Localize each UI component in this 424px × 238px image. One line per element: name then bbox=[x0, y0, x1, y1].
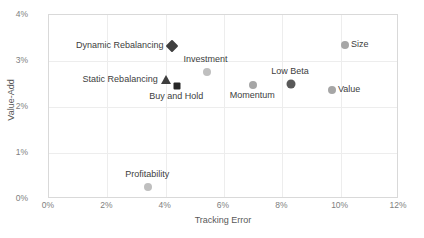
x-axis-title: Tracking Error bbox=[48, 215, 398, 225]
point-label-buy-and-hold: Buy and Hold bbox=[149, 92, 203, 101]
point-label-dynamic-rebalancing: Dynamic Rebalancing bbox=[76, 40, 164, 49]
scatter-chart: 0%1%2%3%4% 0%2%4%6%8%10%12% Dynamic Reba… bbox=[0, 0, 424, 238]
x-axis-tick-label: 0% bbox=[28, 201, 68, 210]
data-point-size[interactable] bbox=[341, 41, 349, 49]
data-point-dynamic-rebalancing[interactable] bbox=[165, 39, 178, 52]
vertical-gridline bbox=[224, 15, 225, 197]
data-point-profitability[interactable] bbox=[144, 183, 152, 191]
data-point-momentum[interactable] bbox=[249, 81, 257, 89]
data-point-buy-and-hold[interactable] bbox=[174, 82, 181, 89]
point-label-low-beta: Low Beta bbox=[271, 67, 309, 76]
y-axis-title: Value-Add bbox=[6, 60, 16, 140]
point-label-investment: Investment bbox=[183, 55, 227, 64]
y-axis-tick-label: 1% bbox=[0, 148, 28, 157]
x-axis-tick-label: 8% bbox=[261, 201, 301, 210]
vertical-gridline bbox=[282, 15, 283, 197]
y-axis-tick-label: 0% bbox=[0, 194, 28, 203]
horizontal-gridline bbox=[49, 107, 397, 108]
point-label-profitability: Profitability bbox=[125, 170, 169, 179]
y-axis-tick-label: 4% bbox=[0, 10, 28, 19]
data-point-low-beta[interactable] bbox=[287, 80, 296, 89]
x-axis-tick-label: 4% bbox=[145, 201, 185, 210]
x-axis-tick-label: 10% bbox=[320, 201, 360, 210]
data-point-static-rebalancing[interactable] bbox=[161, 75, 171, 84]
point-label-static-rebalancing: Static Rebalancing bbox=[83, 74, 158, 83]
horizontal-gridline bbox=[49, 153, 397, 154]
point-label-value: Value bbox=[338, 84, 360, 93]
point-label-size: Size bbox=[351, 39, 369, 48]
data-point-investment[interactable] bbox=[203, 68, 211, 76]
point-label-momentum: Momentum bbox=[230, 91, 275, 100]
x-axis-tick-label: 12% bbox=[378, 201, 418, 210]
data-point-value[interactable] bbox=[328, 86, 336, 94]
x-axis-tick-label: 6% bbox=[203, 201, 243, 210]
x-axis-tick-label: 2% bbox=[86, 201, 126, 210]
